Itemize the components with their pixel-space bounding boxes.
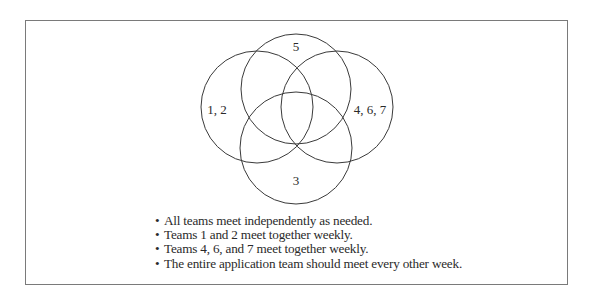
note-item: •The entire application team should meet… <box>155 257 462 271</box>
bullet-icon: • <box>155 214 159 228</box>
venn-label-left: 1, 2 <box>207 102 227 117</box>
bullet-icon: • <box>155 257 159 271</box>
note-text: All teams meet independently as needed. <box>164 213 372 228</box>
bullet-icon: • <box>155 228 159 242</box>
bullet-icon: • <box>155 242 159 256</box>
note-item: •Teams 4, 6, and 7 meet together weekly. <box>155 242 462 256</box>
venn-label-right: 4, 6, 7 <box>354 102 387 117</box>
note-text: Teams 4, 6, and 7 meet together weekly. <box>164 241 368 256</box>
venn-label-bottom: 3 <box>293 173 300 188</box>
note-item: •Teams 1 and 2 meet together weekly. <box>155 228 462 242</box>
note-text: Teams 1 and 2 meet together weekly. <box>164 227 353 242</box>
venn-label-top: 5 <box>293 39 300 54</box>
note-text: The entire application team should meet … <box>164 256 462 271</box>
notes-list: •All teams meet independently as needed.… <box>155 214 462 271</box>
note-item: •All teams meet independently as needed. <box>155 214 462 228</box>
